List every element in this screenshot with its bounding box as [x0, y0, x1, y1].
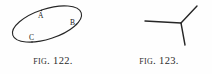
figure-122: A B C Fig. 122.: [0, 0, 106, 74]
figure-123-caption-number: 123.: [159, 55, 179, 66]
figure-page: A B C Fig. 122. Fig. 123.: [0, 0, 212, 74]
figure-123-caption: Fig. 123.: [106, 54, 212, 66]
lower-ray: [181, 23, 185, 45]
point-marker-b: [76, 24, 78, 26]
figure-122-caption-prefix: Fig.: [33, 54, 50, 66]
ellipse-label-c: C: [29, 34, 34, 42]
ellipse-label-b: B: [70, 19, 75, 27]
figure-122-artwork: A B C: [0, 0, 106, 54]
figure-123-artwork: [106, 0, 212, 54]
figure-122-caption: Fig. 122.: [0, 54, 106, 66]
left-horizontal-ray: [145, 21, 181, 23]
upper-right-ray: [181, 6, 197, 23]
ellipse-label-a: A: [38, 12, 43, 20]
figure-123-caption-prefix: Fig.: [139, 54, 156, 66]
figure-123: Fig. 123.: [106, 0, 212, 74]
figure-122-caption-number: 122.: [53, 55, 73, 66]
